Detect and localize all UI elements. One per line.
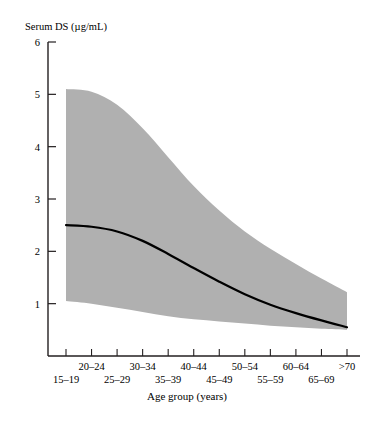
serum-ds-by-age-chart: Serum DS (µg/mL) 123456 15–1920–2425–293… bbox=[0, 0, 374, 422]
x-tick-label-lower: 45–49 bbox=[206, 374, 232, 385]
percentile-band-area bbox=[66, 89, 347, 330]
y-tick-label: 4 bbox=[35, 142, 41, 153]
chart-figure: Serum DS (µg/mL) 123456 15–1920–2425–293… bbox=[0, 0, 374, 422]
y-tick-label: 5 bbox=[35, 89, 40, 100]
y-tick-label: 6 bbox=[35, 37, 40, 48]
x-axis-ticks bbox=[66, 349, 347, 356]
y-tick-label: 1 bbox=[35, 299, 40, 310]
y-tick-label: 2 bbox=[35, 246, 40, 257]
x-tick-label-upper: 50–54 bbox=[232, 361, 259, 372]
x-tick-label-upper: 30–34 bbox=[130, 361, 157, 372]
x-tick-label-lower: 15–19 bbox=[53, 374, 79, 385]
x-axis-title: Age group (years) bbox=[147, 390, 227, 403]
y-axis-ticks: 123456 bbox=[35, 37, 56, 310]
x-axis-tick-labels: 15–1920–2425–2930–3435–3940–4445–4950–54… bbox=[53, 361, 355, 385]
x-tick-label-lower: 65–69 bbox=[308, 374, 334, 385]
x-tick-label-upper: 20–24 bbox=[78, 361, 105, 372]
x-tick-label-lower: 25–29 bbox=[104, 374, 130, 385]
x-tick-label-upper: 40–44 bbox=[181, 361, 208, 372]
percentile-band bbox=[66, 89, 347, 330]
y-axis-title: Serum DS (µg/mL) bbox=[25, 21, 107, 33]
x-tick-label-lower: 55–59 bbox=[257, 374, 283, 385]
x-tick-label-upper: >70 bbox=[339, 361, 355, 372]
y-tick-label: 3 bbox=[35, 194, 40, 205]
x-tick-label-lower: 35–39 bbox=[155, 374, 181, 385]
x-tick-label-upper: 60–64 bbox=[283, 361, 310, 372]
